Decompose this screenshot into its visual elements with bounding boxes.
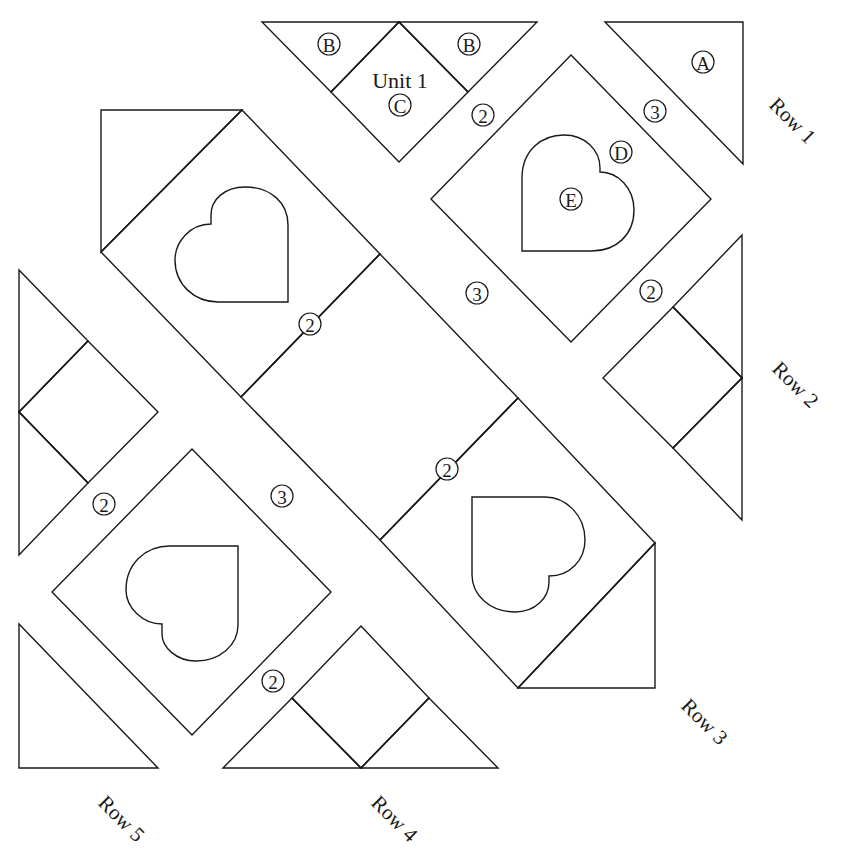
row-4-label: Row 4 [366, 791, 423, 848]
row-2-label: Row 2 [767, 357, 823, 413]
seam-label-row1-unit: 2 [472, 104, 494, 127]
unit-1-label: Unit 1 [372, 68, 428, 93]
seam-label-row1-a: 3 [644, 100, 666, 123]
svg-text:B: B [323, 35, 336, 56]
seam-label-row4: 2 [262, 670, 284, 693]
seam-label-row3-lower: 2 [436, 458, 458, 481]
quilt-assembly-diagram: Unit 1 B B C D E [0, 0, 845, 866]
piece-label-c: C [389, 94, 411, 117]
svg-text:2: 2 [268, 672, 278, 693]
row-3-label: Row 3 [676, 694, 732, 750]
row-2: 2 Row 2 [603, 235, 824, 520]
svg-text:3: 3 [472, 284, 482, 305]
row-1-label: Row 1 [764, 93, 820, 149]
piece-label-e: E [560, 188, 582, 211]
svg-text:C: C [394, 96, 407, 117]
piece-label-b-right: B [458, 33, 480, 56]
svg-text:A: A [696, 53, 710, 74]
seam-label-row3-upper: 2 [299, 313, 321, 336]
row-5-label: Row 5 [93, 791, 149, 847]
svg-text:2: 2 [478, 106, 488, 127]
svg-text:3: 3 [650, 102, 660, 123]
svg-text:B: B [463, 35, 476, 56]
seam-label-row2: 2 [640, 280, 662, 303]
svg-text:2: 2 [99, 495, 109, 516]
svg-text:D: D [614, 143, 628, 164]
piece-label-d: D [610, 141, 632, 164]
svg-text:2: 2 [305, 315, 315, 336]
seam-label-row3-to-row2: 3 [466, 282, 488, 305]
seam-label-row3-to-row4: 3 [271, 485, 293, 508]
svg-text:2: 2 [646, 282, 656, 303]
svg-text:3: 3 [277, 487, 287, 508]
svg-text:E: E [565, 190, 577, 211]
svg-text:2: 2 [442, 460, 452, 481]
piece-label-b-left: B [318, 33, 340, 56]
piece-label-a: A [692, 51, 714, 74]
seam-label-row5: 2 [93, 493, 115, 516]
